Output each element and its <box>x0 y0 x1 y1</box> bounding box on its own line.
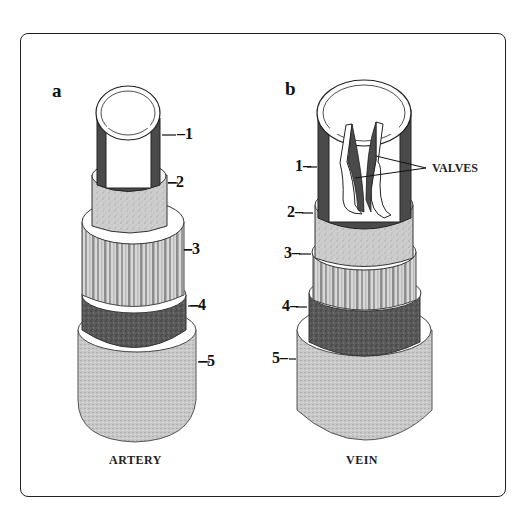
caption-vein: VEIN <box>346 453 378 468</box>
vein-layer-label-3: 3– <box>284 244 300 262</box>
artery-layer-label-3: –3 <box>184 240 200 258</box>
valves-annotation: VALVES <box>432 161 478 176</box>
vessel-diagram <box>0 0 527 517</box>
vein-layer-label-4: 4– <box>282 297 298 315</box>
artery-layer-label-1: –1 <box>177 125 193 143</box>
panel-label-b: b <box>285 78 296 100</box>
panel-label-a: a <box>52 80 62 102</box>
caption-artery: ARTERY <box>109 453 162 468</box>
artery-layer-label-2: –2 <box>168 173 184 191</box>
vein-illustration <box>297 80 432 440</box>
artery-layer-label-5: –5 <box>199 352 215 370</box>
vein-layer-label-1: 1– <box>295 157 311 175</box>
artery-layer-label-4: –4 <box>190 296 206 314</box>
vein-layer-label-5: 5– <box>272 349 288 367</box>
vein-layer-label-2: 2– <box>287 203 303 221</box>
